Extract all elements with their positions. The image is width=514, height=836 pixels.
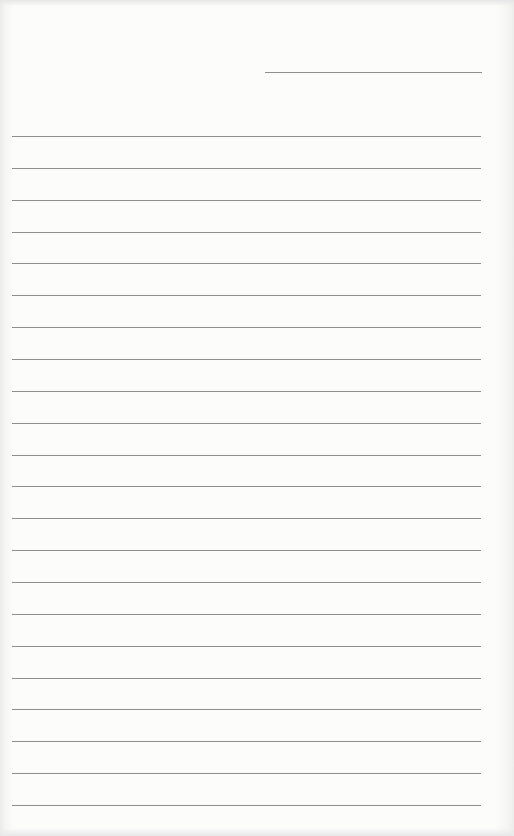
ruled-line: [12, 232, 481, 233]
ruled-line: [12, 582, 481, 583]
ruled-line: [12, 646, 481, 647]
ruled-line: [12, 678, 481, 679]
ruled-line: [12, 359, 481, 360]
ruled-line: [12, 327, 481, 328]
ruled-line: [12, 391, 481, 392]
ruled-line: [12, 805, 481, 806]
ruled-line: [12, 200, 481, 201]
ruled-line: [12, 709, 481, 710]
ruled-line: [12, 614, 481, 615]
top-edge-shadow: [0, 0, 514, 6]
ruled-line: [12, 773, 481, 774]
date-line: [265, 72, 482, 73]
ruled-line: [12, 263, 481, 264]
lined-paper-page: [0, 0, 514, 836]
ruled-line: [12, 486, 481, 487]
ruled-line: [12, 741, 481, 742]
ruled-line: [12, 455, 481, 456]
ruled-line: [12, 423, 481, 424]
ruled-line: [12, 136, 481, 137]
ruled-line: [12, 518, 481, 519]
ruled-line: [12, 295, 481, 296]
bottom-edge-shadow: [0, 828, 514, 836]
ruled-line: [12, 550, 481, 551]
ruled-line: [12, 168, 481, 169]
